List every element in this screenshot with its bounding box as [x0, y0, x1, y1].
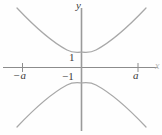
x-axis-label: x: [155, 61, 159, 71]
y-tick-label-one: 1: [69, 52, 75, 63]
x-tick-label-negative-a: −a: [13, 70, 26, 81]
x-tick-label-positive-a: a: [133, 70, 139, 81]
y-tick-label-negative-one: −1: [62, 71, 74, 82]
graph-canvas: [0, 0, 162, 135]
y-axis-label: y: [76, 0, 81, 11]
hyperbola-figure: y x −a a 1 −1: [0, 0, 162, 135]
